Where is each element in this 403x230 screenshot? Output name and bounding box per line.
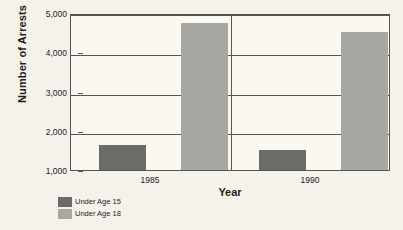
- bar: [341, 32, 388, 170]
- legend-label: Under Age 18: [75, 209, 121, 219]
- y-tick-mark: [78, 132, 83, 133]
- bar: [181, 23, 228, 170]
- y-tick-label: 2,000: [21, 127, 67, 137]
- bar-chart: Number of Arrests 1,0002,0003,0004,0005,…: [0, 0, 403, 230]
- y-tick-mark: [78, 14, 83, 15]
- y-tick-mark: [78, 53, 83, 54]
- y-tick-label: 4,000: [21, 48, 67, 58]
- bar: [259, 150, 306, 170]
- y-tick-label: 3,000: [21, 88, 67, 98]
- category-divider: [231, 16, 232, 170]
- legend-swatch: [58, 197, 72, 207]
- x-tick-label: 1985: [120, 175, 180, 185]
- chart-legend: Under Age 15Under Age 18: [58, 196, 121, 220]
- y-tick-mark: [78, 93, 83, 94]
- legend-label: Under Age 15: [75, 197, 121, 207]
- legend-swatch: [58, 209, 72, 219]
- y-tick-label: 1,000: [21, 166, 67, 176]
- bar: [99, 145, 146, 171]
- legend-item: Under Age 18: [58, 208, 121, 219]
- y-tick-mark: [78, 171, 83, 172]
- plot-area: [70, 14, 390, 171]
- x-tick-label: 1990: [280, 175, 340, 185]
- legend-item: Under Age 15: [58, 196, 121, 207]
- y-tick-label: 5,000: [21, 9, 67, 19]
